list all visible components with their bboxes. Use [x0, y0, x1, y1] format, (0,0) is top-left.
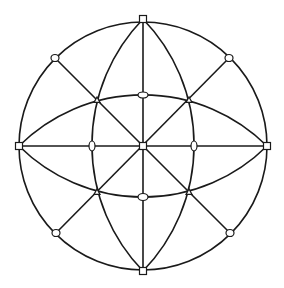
- node-inner-bottom: [138, 194, 148, 201]
- node-inner-right: [191, 141, 197, 151]
- node-left: [16, 143, 23, 150]
- node-bottom: [140, 268, 147, 275]
- node-right: [264, 143, 271, 150]
- node-top: [140, 16, 147, 23]
- geometric-diagram: [0, 0, 284, 288]
- node-outer-se: [226, 230, 234, 237]
- node-center: [140, 143, 147, 150]
- node-inner-left: [89, 141, 95, 151]
- lens-vertical-left-arc: [92, 19, 143, 271]
- node-inner-top: [138, 92, 148, 98]
- node-cross-ne: [186, 97, 192, 102]
- lens-vertical-right-arc: [143, 19, 194, 271]
- node-outer-nw: [51, 55, 59, 62]
- node-outer-ne: [225, 55, 233, 62]
- node-outer-sw: [52, 230, 60, 237]
